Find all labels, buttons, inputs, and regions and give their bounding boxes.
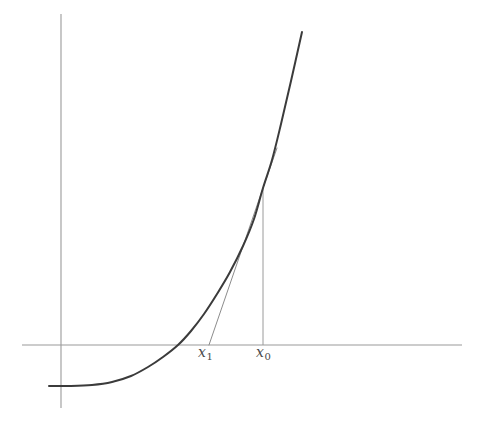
axis-label-x0-base: x	[256, 344, 264, 360]
axis-label-x0-subscript: 0	[264, 351, 270, 362]
function-curve	[49, 32, 302, 386]
newton-method-figure: x1 x0	[0, 0, 483, 426]
axis-label-x1-subscript: 1	[206, 351, 212, 362]
axis-label-x1-base: x	[198, 344, 206, 360]
axis-label-x0: x0	[256, 345, 270, 359]
axis-label-x1: x1	[198, 345, 212, 359]
figure-canvas	[0, 0, 483, 426]
